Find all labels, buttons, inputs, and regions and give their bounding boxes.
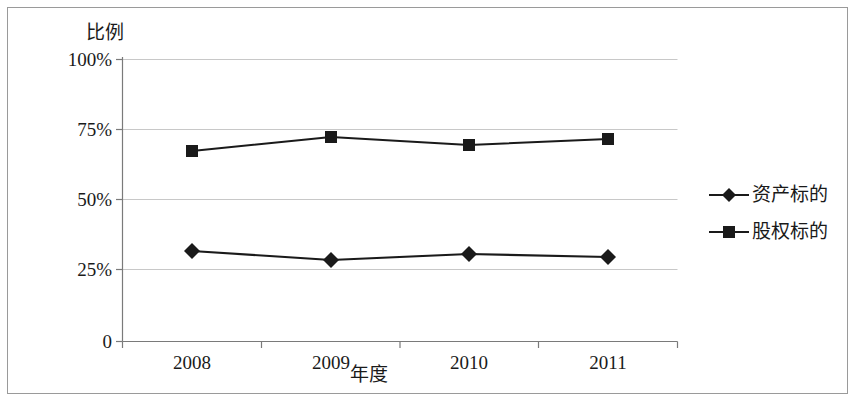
y-tick-label-25: 25% bbox=[40, 260, 112, 279]
y-axis-title: 比例 bbox=[86, 23, 124, 42]
axis-ticks bbox=[116, 60, 678, 349]
legend-entry-equity-targets: 股权标的 bbox=[708, 213, 855, 250]
data-point-equity-2008 bbox=[186, 145, 198, 157]
x-axis-title: 年度 bbox=[350, 365, 388, 384]
chart-figure: 比例 100% 75% 50% 25% 0 2008 2009 2010 201… bbox=[7, 7, 848, 394]
x-tick-label-2010: 2010 bbox=[414, 353, 524, 372]
legend-label-equity-targets: 股权标的 bbox=[750, 222, 828, 241]
data-point-asset-2011 bbox=[600, 249, 616, 265]
data-point-asset-2010 bbox=[461, 246, 477, 262]
y-tick-label-100: 100% bbox=[40, 50, 112, 69]
y-tick-label-75: 75% bbox=[40, 120, 112, 139]
data-point-equity-2009 bbox=[325, 131, 337, 143]
series-equity-line bbox=[192, 137, 608, 151]
chart-legend: 资产标的 股权标的 bbox=[708, 176, 855, 250]
data-point-equity-2010 bbox=[463, 139, 475, 151]
legend-entry-asset-targets: 资产标的 bbox=[708, 176, 855, 213]
data-point-equity-2011 bbox=[602, 133, 614, 145]
x-tick-label-2011: 2011 bbox=[553, 353, 663, 372]
square-marker-icon bbox=[708, 223, 750, 241]
series-equity-targets bbox=[186, 131, 614, 157]
series-asset-targets bbox=[184, 243, 616, 268]
series-asset-line bbox=[192, 251, 608, 260]
diamond-marker-icon bbox=[708, 186, 750, 204]
y-tick-label-0: 0 bbox=[40, 332, 112, 351]
data-point-asset-2008 bbox=[184, 243, 200, 259]
data-point-asset-2009 bbox=[323, 252, 339, 268]
y-tick-label-50: 50% bbox=[40, 190, 112, 209]
legend-label-asset-targets: 资产标的 bbox=[750, 185, 828, 204]
x-tick-label-2008: 2008 bbox=[137, 353, 247, 372]
gridlines bbox=[123, 60, 678, 270]
